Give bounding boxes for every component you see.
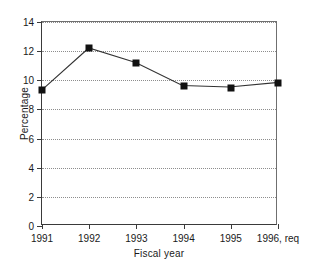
- x-axis-tick: [42, 224, 43, 229]
- y-axis-label: 0: [28, 221, 34, 232]
- x-axis-tick: [89, 224, 90, 229]
- x-axis-tick: [278, 224, 279, 229]
- y-axis-label: 4: [28, 162, 34, 173]
- plot-area: 02468101214 199119921993199419951996, re…: [41, 21, 277, 225]
- data-point: [227, 84, 234, 91]
- y-axis-label: 12: [23, 46, 34, 57]
- x-axis-tick: [184, 224, 185, 229]
- x-axis-title: Fiscal year: [41, 248, 277, 259]
- x-axis-label: 1994: [172, 233, 194, 244]
- data-point: [133, 59, 140, 66]
- data-point: [86, 45, 93, 52]
- series-line: [42, 22, 276, 224]
- data-point: [39, 87, 46, 94]
- y-axis-label: 10: [23, 75, 34, 86]
- data-point: [275, 80, 282, 87]
- data-point: [180, 83, 187, 90]
- line-chart: Percentage 02468101214 19911992199319941…: [0, 0, 319, 270]
- y-axis-label: 14: [23, 17, 34, 28]
- x-axis-label: 1991: [31, 233, 53, 244]
- x-axis-label: 1995: [220, 233, 242, 244]
- y-axis-label: 6: [28, 133, 34, 144]
- y-axis-label: 8: [28, 104, 34, 115]
- y-axis-label: 2: [28, 191, 34, 202]
- x-axis-tick: [136, 224, 137, 229]
- x-axis-label: 1996, req: [257, 233, 299, 244]
- x-axis-label: 1992: [78, 233, 100, 244]
- x-axis-tick: [231, 224, 232, 229]
- x-axis-label: 1993: [125, 233, 147, 244]
